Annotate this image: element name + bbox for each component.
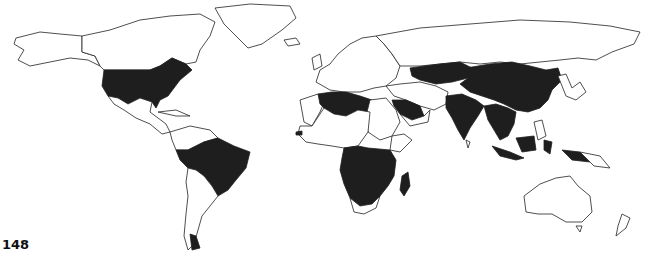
region-india	[446, 94, 484, 140]
region-philippines	[534, 120, 546, 140]
region-madagascar	[400, 172, 410, 196]
map-corner-label: 148	[2, 237, 29, 252]
region-horn-of-africa	[390, 134, 412, 152]
region-central-southern-africa	[340, 146, 396, 206]
region-sri-lanka	[466, 140, 470, 148]
region-iceland	[284, 38, 300, 46]
region-canada	[82, 14, 215, 70]
region-uk	[312, 54, 322, 70]
region-new-zealand	[616, 214, 630, 236]
region-gambia	[296, 131, 302, 135]
region-korea-japan	[558, 74, 586, 100]
region-russia	[376, 20, 640, 66]
region-southeast-asia	[484, 104, 516, 140]
region-greenland	[215, 4, 296, 48]
region-tasmania	[576, 226, 582, 232]
region-caribbean	[158, 110, 190, 116]
region-australia	[524, 176, 592, 222]
region-indonesia	[492, 136, 590, 162]
world-map	[0, 0, 649, 258]
region-tierra-del-fuego	[190, 234, 200, 250]
region-mexico-central-america	[108, 96, 170, 134]
